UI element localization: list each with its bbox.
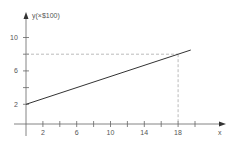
x-axis-label: x <box>218 129 222 136</box>
dashed-guides <box>26 54 178 124</box>
x-tick-label: 18 <box>174 129 182 136</box>
x-tick-label: 6 <box>75 129 79 136</box>
axes <box>14 12 226 136</box>
y-axis-label: y(×$100) <box>32 12 60 19</box>
x-axis-arrow-icon <box>219 122 226 127</box>
y-tick-label: 2 <box>14 101 18 108</box>
x-tick-label: 2 <box>41 129 45 136</box>
series-line <box>26 50 191 104</box>
y-tick-label: 10 <box>10 34 18 41</box>
x-tick-label: 14 <box>140 129 148 136</box>
y-tick-label: 6 <box>14 67 18 74</box>
x-tick-label: 10 <box>107 129 115 136</box>
data-line <box>26 50 191 104</box>
chart-svg <box>0 0 230 144</box>
y-axis-arrow-icon <box>24 12 29 19</box>
